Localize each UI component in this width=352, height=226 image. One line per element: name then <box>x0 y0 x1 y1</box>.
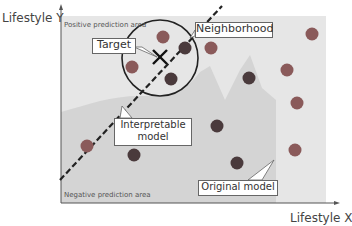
data-point-dark <box>211 120 224 133</box>
target-callout: Target <box>92 38 136 54</box>
original-model-callout: Original model <box>198 180 278 196</box>
interpretable-model-callout: Interpretable model <box>114 118 192 146</box>
y-axis-label: Lifestyle Y <box>2 11 64 25</box>
data-point-dark <box>231 157 244 170</box>
data-point-red <box>289 144 302 157</box>
data-point-dark <box>128 149 141 162</box>
data-point-dark <box>165 73 178 86</box>
data-point-red <box>126 61 139 74</box>
x-axis-label: Lifestyle X <box>290 211 352 225</box>
data-point-red <box>281 64 294 77</box>
interpretable-label-line1: Interpretable <box>115 119 191 131</box>
data-point-red <box>157 31 170 44</box>
positive-area-label: Positive prediction area <box>64 21 146 29</box>
y-axis-arrow-icon <box>59 4 63 10</box>
data-point-red <box>306 28 319 41</box>
neighborhood-callout: Neighborhood <box>195 22 273 38</box>
data-point-red <box>291 97 304 110</box>
data-point-dark <box>179 42 192 55</box>
interpretable-label-line2: model <box>115 131 191 143</box>
data-point-dark <box>243 72 256 85</box>
data-point-red <box>81 140 94 153</box>
data-point-red <box>205 42 218 55</box>
x-axis-arrow-icon <box>334 201 340 205</box>
negative-area-label: Negative prediction area <box>64 191 151 199</box>
